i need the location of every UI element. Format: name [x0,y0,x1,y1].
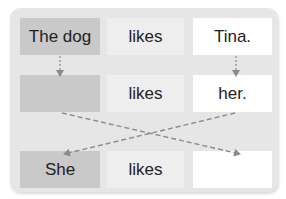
arrows-layer [0,0,286,199]
arrow-cross-to-object [62,113,240,154]
